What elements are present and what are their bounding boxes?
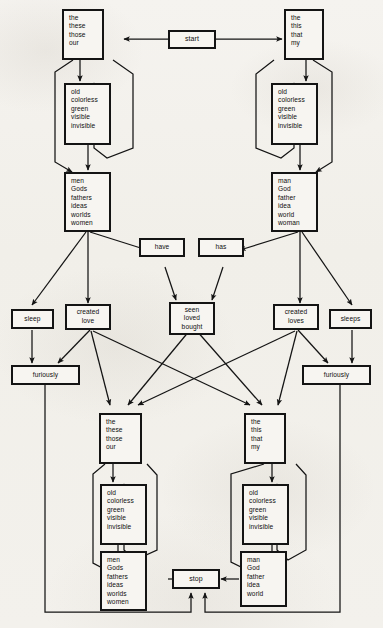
node-furiously-left[interactable]: furiously [11, 365, 80, 385]
word: God [247, 564, 285, 573]
word: women [71, 219, 109, 228]
node-det-right-bottom[interactable]: the this that my [244, 413, 286, 464]
node-participles[interactable]: seen loved bought [169, 302, 215, 335]
word: idea [247, 581, 285, 590]
word: the [69, 14, 102, 23]
word: Gods [71, 185, 109, 194]
word: green [71, 105, 109, 114]
word: God [278, 185, 316, 194]
word: father [278, 194, 316, 203]
edge-have-to-participles [165, 267, 176, 300]
word: visible [278, 113, 316, 122]
word: this [251, 426, 284, 435]
word: invisible [278, 122, 316, 131]
word: green [107, 506, 145, 515]
node-stop-label: stop [174, 575, 218, 584]
node-noun-left-top[interactable]: men Gods fathers ideas worlds women [64, 172, 111, 232]
edge-participles-to-det-left-bottom [128, 330, 190, 405]
word: the [291, 14, 322, 23]
word: our [69, 39, 102, 48]
word: woman [278, 219, 316, 228]
word: visible [107, 514, 145, 523]
node-noun-right-bottom[interactable]: man God father idea world [240, 551, 287, 607]
node-have[interactable]: have [139, 238, 185, 257]
edge-created-loves-to-furiously-right [298, 330, 328, 363]
word: those [106, 435, 140, 444]
node-created-loves[interactable]: created loves [273, 304, 319, 330]
word: idea [278, 202, 316, 211]
edge-participles-to-det-right-bottom [196, 330, 262, 405]
edge-created-loves-to-det-left-bottom [138, 331, 295, 405]
word: the [251, 418, 284, 427]
node-adj-left-bottom[interactable]: old colorless green visible invisible [100, 484, 147, 545]
word: love [67, 317, 109, 326]
word: ideas [107, 581, 145, 590]
node-noun-right-top[interactable]: man God father idea world woman [271, 172, 318, 232]
word: father [247, 573, 285, 582]
word: fathers [71, 194, 109, 203]
node-start[interactable]: start [168, 30, 216, 49]
node-start-label: start [170, 35, 214, 44]
edge-created-love-to-furiously-left [58, 330, 90, 363]
node-sleep[interactable]: sleep [11, 309, 54, 329]
node-stop[interactable]: stop [172, 569, 220, 589]
word: that [251, 435, 284, 444]
word: furiously [13, 371, 78, 380]
word: bought [171, 323, 213, 332]
word: that [291, 31, 322, 40]
word: these [106, 426, 140, 435]
word: has [200, 243, 242, 252]
word: world [278, 211, 316, 220]
word: have [141, 243, 183, 252]
edge-created-love-to-det-left-bottom [91, 331, 110, 405]
word: man [278, 177, 316, 186]
word: men [71, 177, 109, 186]
word: worlds [71, 211, 109, 220]
node-sleeps[interactable]: sleeps [329, 309, 372, 329]
word: seen [171, 306, 213, 315]
word: old [107, 489, 145, 498]
word: those [69, 31, 102, 40]
node-det-right-top[interactable]: the this that my [284, 9, 324, 60]
node-noun-left-bottom[interactable]: men Gods fathers ideas worlds women [100, 551, 147, 611]
node-adj-left-top[interactable]: old colorless green visible invisible [64, 83, 111, 145]
word: sleep [13, 315, 52, 324]
edge-created-love-to-det-right-bottom [93, 331, 250, 405]
node-furiously-right[interactable]: furiously [302, 365, 371, 385]
word: invisible [107, 523, 145, 532]
word: loved [171, 314, 213, 323]
word: created [275, 308, 317, 317]
word: loves [275, 317, 317, 326]
word: colorless [71, 96, 109, 105]
edge-noun-right-to-has [240, 232, 298, 250]
word: old [278, 88, 316, 97]
word: furiously [304, 371, 369, 380]
diagram-page: start the these those our the this that … [0, 0, 383, 628]
word: created [67, 308, 109, 317]
word: my [251, 443, 284, 452]
word: men [107, 556, 145, 565]
word: colorless [249, 497, 287, 506]
node-det-left-bottom[interactable]: the these those our [99, 413, 142, 464]
word: old [249, 489, 287, 498]
word: old [71, 88, 109, 97]
word: Gods [107, 564, 145, 573]
word: green [249, 506, 287, 515]
word: man [247, 556, 285, 565]
node-has[interactable]: has [198, 238, 244, 257]
word: these [69, 22, 102, 31]
word: women [107, 598, 145, 607]
word: invisible [71, 122, 109, 131]
node-adj-right-bottom[interactable]: old colorless green visible invisible [242, 484, 289, 545]
edge-noun-right-to-sleeps [302, 232, 352, 305]
word: worlds [107, 590, 145, 599]
word: the [106, 418, 140, 427]
node-det-left-top[interactable]: the these those our [62, 9, 104, 60]
node-adj-right-top[interactable]: old colorless green visible invisible [271, 83, 318, 145]
edge-noun-left-to-sleep [32, 232, 86, 305]
word: visible [71, 113, 109, 122]
node-created-love[interactable]: created love [65, 304, 111, 330]
word: fathers [107, 573, 145, 582]
word: our [106, 443, 140, 452]
word: green [278, 105, 316, 114]
